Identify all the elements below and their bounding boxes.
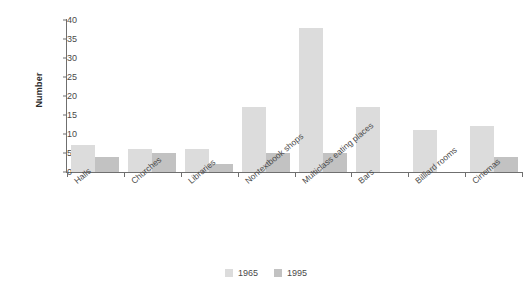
bar	[95, 157, 119, 172]
legend-label: 1995	[287, 268, 307, 278]
legend-swatch	[274, 269, 282, 277]
x-axis-labels: HallsChurchesLibrariesNontextbook shopsM…	[66, 176, 523, 246]
legend-label: 1965	[238, 268, 258, 278]
bar-group	[67, 20, 124, 172]
bar-group	[351, 20, 408, 172]
bar-group	[465, 20, 522, 172]
bar-group	[124, 20, 181, 172]
legend-item: 1965	[225, 268, 258, 278]
bar	[299, 28, 323, 172]
legend-item: 1995	[274, 268, 307, 278]
bar-group	[181, 20, 238, 172]
legend-swatch	[225, 269, 233, 277]
bar-chart: Number 0510152025303540 HallsChurchesLib…	[0, 0, 532, 296]
chart-legend: 19651995	[0, 268, 532, 278]
